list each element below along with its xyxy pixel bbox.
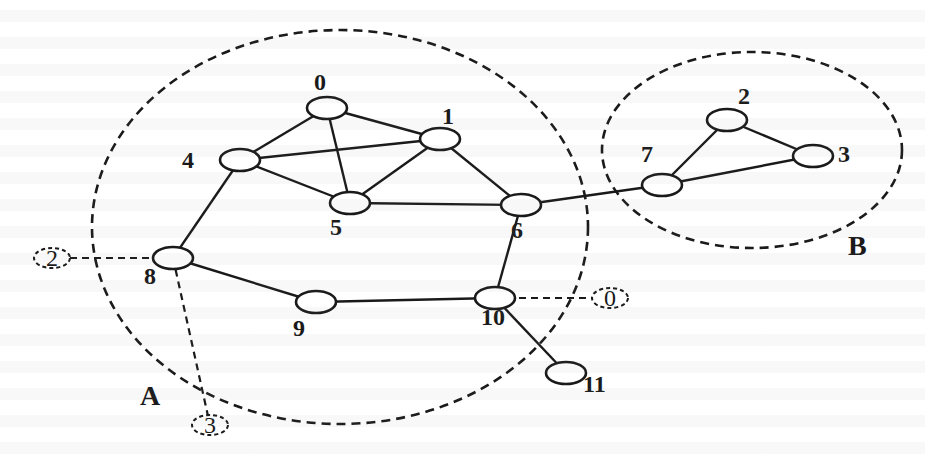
network-diagram: AB23001234567891011: [0, 0, 925, 456]
bleed-through-background: [0, 0, 925, 456]
